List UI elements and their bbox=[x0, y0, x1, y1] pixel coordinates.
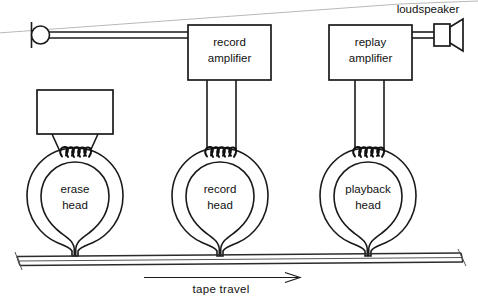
record-amplifier-label-line1: record bbox=[213, 36, 246, 48]
erase-head-label-line2: head bbox=[62, 199, 88, 211]
magnetic-tape bbox=[15, 249, 466, 270]
record-head-assembly: record head bbox=[172, 80, 268, 256]
erase-head-label-line1: erase bbox=[61, 183, 90, 195]
erase-oscillator-box bbox=[37, 90, 113, 134]
tape-edge-bottom bbox=[20, 262, 463, 266]
playback-head-assembly: playback head bbox=[320, 80, 416, 256]
replay-amplifier-label-line2: amplifier bbox=[349, 52, 393, 64]
microphone-symbol bbox=[32, 22, 50, 48]
diagram-canvas: record amplifier replay amplifier loudsp… bbox=[0, 0, 478, 307]
loudspeaker-body-icon bbox=[434, 24, 450, 46]
replay-amplifier-label-line1: replay bbox=[355, 36, 387, 48]
loudspeaker-cone-icon bbox=[450, 19, 463, 51]
loudspeaker-cable bbox=[412, 32, 434, 38]
microphone-capsule-icon bbox=[32, 26, 50, 44]
erase-head-assembly: erase head bbox=[27, 134, 123, 256]
tape-travel-indicator: tape travel bbox=[144, 273, 300, 296]
playback-head-label-line1: playback bbox=[345, 183, 391, 195]
tape-edge-middle bbox=[19, 258, 462, 262]
tape-travel-label: tape travel bbox=[193, 283, 250, 295]
loudspeaker-label: loudspeaker bbox=[397, 3, 460, 15]
microphone-cable bbox=[49, 32, 188, 38]
tape-recorder-diagram: record amplifier replay amplifier loudsp… bbox=[0, 0, 478, 307]
tape-edge-top bbox=[17, 253, 461, 257]
record-amplifier-label-line2: amplifier bbox=[208, 52, 252, 64]
playback-head-label-line2: head bbox=[355, 199, 381, 211]
record-head-label-line1: record bbox=[204, 183, 237, 195]
record-head-label-line2: head bbox=[207, 199, 233, 211]
loudspeaker-symbol bbox=[434, 19, 463, 51]
